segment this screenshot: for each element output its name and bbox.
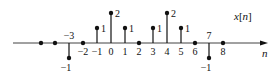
stem-n-5 [39,41,43,45]
labels: −3−1−2−110211231425167−18 [61,8,226,73]
x-axis-label: n [262,47,268,59]
stem-n7 [207,43,211,60]
tick-label: 0 [109,46,114,57]
stem-n1 [123,26,127,43]
tick-label: 3 [151,46,156,57]
stem-marker [109,11,113,15]
stem-n4 [165,11,169,43]
stem-n2 [137,41,141,45]
stem-marker [207,56,211,60]
stem-marker [123,26,127,30]
stem-marker [151,26,155,30]
stem-n6 [193,41,197,45]
value-label: 1 [185,23,190,34]
stem-n3 [151,26,155,43]
tick-label: 2 [137,46,142,57]
stem-n5 [179,26,183,43]
stem-marker [95,26,99,30]
tick-label: 4 [165,46,170,57]
stem-marker [221,41,225,45]
stem-marker [53,41,57,45]
tick-label: −1 [92,46,103,57]
tick-label: 5 [179,46,184,57]
stem-marker [137,41,141,45]
tick-label: 8 [221,46,226,57]
value-label: 1 [129,23,134,34]
stem-n-1 [95,26,99,43]
stem-n8 [221,41,225,45]
tick-label: −3 [64,30,75,41]
stem-n0 [109,11,113,43]
stem-marker [67,56,71,60]
stem-marker [81,41,85,45]
signal-label: x[n] [233,10,252,22]
value-label: 1 [157,23,162,34]
tick-label: −2 [78,46,89,57]
stem-marker [39,41,43,45]
tick-label: 1 [123,46,128,57]
axis-arrow-icon [260,41,268,46]
tick-label: 7 [207,30,212,41]
value-label: −1 [61,62,72,73]
stem-plot: −3−1−2−110211231425167−18 x[n] n [0,0,279,75]
stem-n-4 [53,41,57,45]
value-label: −1 [201,62,212,73]
stem-marker [193,41,197,45]
stem-marker [179,26,183,30]
value-label: 1 [101,23,106,34]
value-label: 2 [171,8,176,19]
stem-n-3 [67,43,71,60]
stem-n-2 [81,41,85,45]
stem-marker [165,11,169,15]
value-label: 2 [115,8,120,19]
tick-label: 6 [193,46,198,57]
